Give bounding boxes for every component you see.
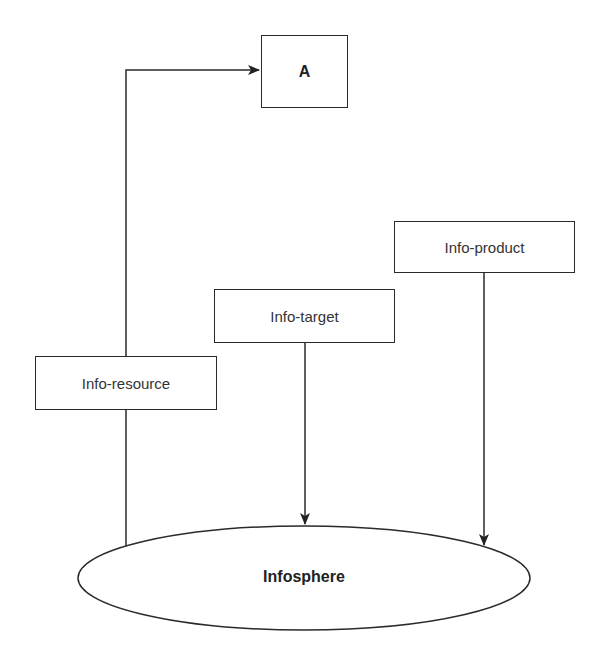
node-a-label: A — [299, 63, 311, 81]
node-info-target-label: Info-target — [270, 308, 338, 325]
infosphere-label: Infosphere — [204, 568, 404, 586]
node-info-product-label: Info-product — [444, 239, 524, 256]
node-a: A — [261, 35, 348, 108]
node-info-resource: Info-resource — [35, 356, 217, 410]
node-info-target: Info-target — [214, 289, 395, 343]
node-info-resource-label: Info-resource — [82, 375, 170, 392]
node-info-product: Info-product — [394, 221, 575, 273]
